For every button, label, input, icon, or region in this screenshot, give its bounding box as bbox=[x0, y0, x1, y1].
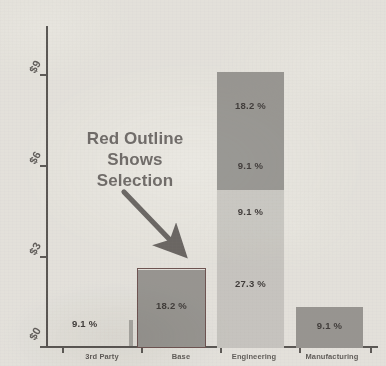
x-axis-tick bbox=[141, 348, 143, 353]
y-axis-label-0: $0 bbox=[17, 325, 43, 359]
annotation-line-1: Red Outline bbox=[56, 128, 214, 149]
bar-engineering[interactable]: 27.3 % 9.1 % 9.1 % 18.2 % bbox=[217, 72, 284, 348]
bar-segment-engineering-1[interactable]: 27.3 % bbox=[217, 238, 284, 348]
scanned-chart-page: $9 $6 $3 $0 9.1 % 18.2 % 27.3 % bbox=[0, 0, 386, 366]
bar-value-label-engineering-4: 18.2 % bbox=[217, 100, 284, 111]
y-axis-tick bbox=[40, 74, 46, 76]
bar-segment-engineering-4[interactable]: 18.2 % bbox=[217, 72, 284, 146]
y-axis-tick bbox=[40, 346, 46, 348]
y-axis-line bbox=[46, 26, 48, 348]
bar-chart-plot: $9 $6 $3 $0 9.1 % 18.2 % 27.3 % bbox=[0, 0, 386, 366]
bar-segment-manufacturing-1[interactable]: 9.1 % bbox=[296, 307, 363, 348]
bar-segment-base-1[interactable]: 18.2 % bbox=[138, 270, 205, 348]
y-axis-tick bbox=[40, 256, 46, 258]
bar-segment-engineering-3[interactable]: 9.1 % bbox=[217, 146, 284, 190]
x-axis-label-engineering: Engineering bbox=[222, 352, 286, 361]
y-axis-tick bbox=[40, 165, 46, 167]
x-axis-tick bbox=[370, 348, 372, 353]
selection-annotation-text: Red Outline Shows Selection bbox=[56, 128, 214, 191]
bar-value-label-manufacturing: 9.1 % bbox=[296, 320, 363, 331]
bar-value-label-engineering-3: 9.1 % bbox=[217, 160, 284, 171]
annotation-line-2: Shows bbox=[56, 149, 214, 170]
bar-value-label-engineering-2: 9.1 % bbox=[217, 206, 284, 217]
x-axis-tick bbox=[62, 348, 64, 353]
x-axis-label-base: Base bbox=[151, 352, 211, 361]
bar-base[interactable]: 18.2 % bbox=[138, 270, 205, 348]
x-axis-label-manufacturing: Manufacturing bbox=[296, 352, 368, 361]
bar-value-label-engineering-1: 27.3 % bbox=[217, 278, 284, 289]
x-axis-label-3rd-party: 3rd Party bbox=[72, 352, 132, 361]
bar-segment[interactable] bbox=[129, 320, 133, 346]
bar-value-label-3rd-party: 9.1 % bbox=[72, 318, 97, 329]
bar-value-label-base: 18.2 % bbox=[138, 300, 205, 311]
diagonal-down-right-arrow-icon bbox=[120, 186, 210, 266]
bar-manufacturing[interactable]: 9.1 % bbox=[296, 307, 363, 348]
bar-segment-engineering-2[interactable]: 9.1 % bbox=[217, 190, 284, 238]
bar-3rd-party[interactable] bbox=[129, 320, 133, 346]
